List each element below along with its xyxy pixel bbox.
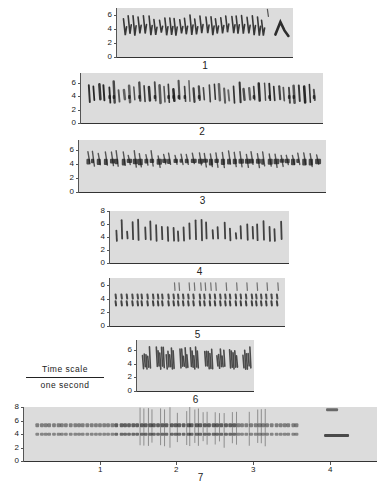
y-tick-label: 4 [62,160,74,168]
y-tick-label: 4 [100,25,112,33]
y-tick-mark [76,150,79,151]
spectrogram-plot [137,340,254,392]
panel-number-label: 5 [188,329,208,340]
y-tick-mark [134,377,137,378]
spectrogram-plot [24,407,377,462]
y-tick-label: 4 [7,430,19,438]
y-tick-mark [114,15,117,16]
y-tick-label: 6 [120,346,132,354]
y-tick-label: 0 [93,322,105,330]
y-tick-label: 0 [93,259,105,267]
y-tick-mark [134,350,137,351]
y-tick-mark [107,211,110,212]
y-tick-label: 6 [7,417,19,425]
y-tick-label: 0 [64,119,76,127]
panel-number-label: 4 [190,266,210,277]
y-tick-label: 4 [93,233,105,241]
y-tick-mark [134,364,137,365]
y-tick-mark [21,407,24,408]
y-tick-label: 4 [120,360,132,368]
y-tick-label: 4 [93,295,105,303]
y-tick-mark [78,96,81,97]
y-tick-mark [21,421,24,422]
y-tick-label: 0 [100,53,112,61]
spectrogram-marks [24,407,377,461]
y-tick-mark [78,110,81,111]
y-tick-mark [107,299,110,300]
y-tick-mark [107,312,110,313]
x-tick-label: 4 [328,465,332,474]
y-tick-mark [78,83,81,84]
y-tick-label: 8 [93,207,105,215]
x-tick-label: 2 [174,465,178,474]
y-tick-mark [114,29,117,30]
y-tick-mark [107,224,110,225]
y-tick-label: 2 [62,174,74,182]
y-tick-mark [107,326,110,327]
y-tick-label: 8 [7,403,19,411]
y-tick-mark [114,57,117,58]
y-tick-label: 4 [64,92,76,100]
time-scale-legend: Time scale one second [26,364,104,390]
spectrogram-marks [117,8,293,57]
panel-number-label: 7 [191,472,211,483]
spectrogram-plot [79,140,326,193]
spectrogram-plot [110,278,285,327]
y-tick-mark [21,448,24,449]
y-tick-label: 6 [93,220,105,228]
y-tick-label: 2 [7,444,19,452]
spectrogram-plot [81,73,323,124]
y-tick-label: 2 [100,39,112,47]
spectrogram-marks [110,278,285,326]
y-tick-mark [107,250,110,251]
panel-number-label: 6 [186,394,206,405]
y-tick-mark [76,192,79,193]
spectrogram-marks [137,340,254,391]
panel-number-label: 3 [193,195,213,206]
y-tick-label: 6 [93,281,105,289]
y-tick-label: 0 [7,457,19,465]
y-tick-label: 6 [62,146,74,154]
y-tick-mark [21,434,24,435]
y-tick-mark [114,43,117,44]
y-tick-mark [134,391,137,392]
y-tick-label: 2 [64,106,76,114]
y-tick-mark [78,123,81,124]
spectrogram-marks [81,73,323,123]
spectrogram-marks [79,140,326,192]
x-tick-label: 3 [251,465,255,474]
y-tick-mark [107,237,110,238]
y-tick-mark [107,263,110,264]
spectrogram-plot [117,8,293,58]
y-tick-label: 6 [100,11,112,19]
y-tick-label: 0 [120,387,132,395]
spectrogram-marks [110,211,289,263]
y-tick-mark [76,178,79,179]
time-scale-label: Time scale [26,364,104,374]
y-tick-label: 6 [64,79,76,87]
y-tick-label: 2 [93,246,105,254]
y-tick-label: 2 [120,373,132,381]
spectrogram-plot [110,211,289,264]
panel-number-label: 2 [192,126,212,137]
time-scale-sublabel: one second [26,380,104,390]
y-tick-label: 0 [62,188,74,196]
y-tick-label: 2 [93,308,105,316]
y-tick-mark [76,164,79,165]
y-tick-mark [107,285,110,286]
panel-number-label: 1 [195,60,215,71]
x-tick-label: 1 [98,465,102,474]
y-tick-mark [21,461,24,462]
time-scale-bar [26,377,104,378]
